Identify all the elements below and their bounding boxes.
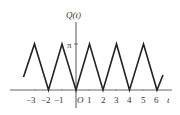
x-axis-label: t <box>167 95 170 105</box>
pi-label: π <box>67 40 72 50</box>
tick-label: −2 <box>41 95 51 105</box>
tick-label: 6 <box>154 95 159 105</box>
tick-label: 3 <box>114 95 119 105</box>
tick-label: 2 <box>101 95 106 105</box>
tick-label: −1 <box>54 95 64 105</box>
triangle-wave-series <box>24 44 164 90</box>
tick-label: 4 <box>127 95 132 105</box>
tick-label: 1 <box>87 95 92 105</box>
chart-canvas: Q(t) π t O −3 −2 −1 1 2 3 4 5 6 <box>0 0 180 115</box>
tick-label: 5 <box>141 95 146 105</box>
x-tick-labels: −3 −2 −1 1 2 3 4 5 6 <box>26 95 159 105</box>
tick-label: −3 <box>26 95 36 105</box>
origin-label: O <box>77 95 84 105</box>
y-axis-label: Q(t) <box>66 10 81 20</box>
